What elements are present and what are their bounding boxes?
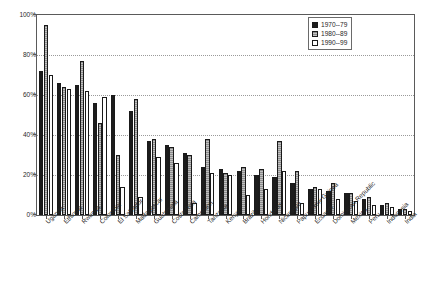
bar [367, 197, 371, 215]
bar-chart: 0%20%40%60%80%100% UgandaEthiopiaRwandaC… [0, 0, 423, 291]
bar [111, 95, 115, 215]
bar-group [254, 15, 268, 215]
bar [93, 103, 97, 215]
bar-group [201, 15, 215, 215]
bar [67, 89, 71, 215]
bar [85, 91, 89, 215]
legend-item: 1980--89 [312, 29, 347, 38]
legend-item-label: 1990--99 [321, 39, 347, 47]
bar [44, 25, 48, 215]
bar-group [39, 15, 53, 215]
bars-layer [37, 15, 414, 215]
legend-item: 1990--99 [312, 38, 347, 47]
bar [62, 87, 66, 215]
bar-group [129, 15, 143, 215]
bar-group [165, 15, 179, 215]
bar-group [398, 15, 412, 215]
bar [129, 111, 133, 215]
legend-swatch-icon [312, 31, 318, 37]
bar [102, 97, 106, 215]
bar-group [290, 15, 304, 215]
bar [385, 203, 389, 215]
bar [174, 163, 178, 215]
y-tick-label: 80% [6, 51, 36, 58]
bar-group [75, 15, 89, 215]
legend-swatch-icon [312, 22, 318, 28]
y-tick-label: 40% [6, 131, 36, 138]
y-tick-label: 60% [6, 91, 36, 98]
legend-item-label: 1970--79 [321, 21, 347, 29]
legend-item-label: 1980--89 [321, 30, 347, 38]
bar-group [219, 15, 233, 215]
bar [241, 167, 245, 215]
bar [259, 169, 263, 215]
bar-group [57, 15, 71, 215]
bar-group [147, 15, 161, 215]
bar-group [111, 15, 125, 215]
bar [80, 61, 84, 215]
bar [228, 175, 232, 215]
y-tick-label: 20% [6, 171, 36, 178]
bar [254, 175, 258, 215]
legend-item: 1970--79 [312, 20, 347, 29]
y-tick-label: 0% [6, 211, 36, 218]
y-tick-label: 100% [6, 11, 36, 18]
bar [75, 85, 79, 215]
bar [49, 75, 53, 215]
y-axis: 0%20%40%60%80%100% [0, 14, 36, 216]
bar [39, 71, 43, 215]
bar [57, 83, 61, 215]
bar [98, 123, 102, 215]
legend-swatch-icon [312, 40, 318, 46]
bar-group [93, 15, 107, 215]
bar-group [183, 15, 197, 215]
bar [282, 171, 286, 215]
bar [210, 173, 214, 215]
chart-legend: 1970--79 1980--89 1990--99 [308, 17, 352, 50]
bar-group [237, 15, 251, 215]
bar-group [380, 15, 394, 215]
bar-group [272, 15, 286, 215]
